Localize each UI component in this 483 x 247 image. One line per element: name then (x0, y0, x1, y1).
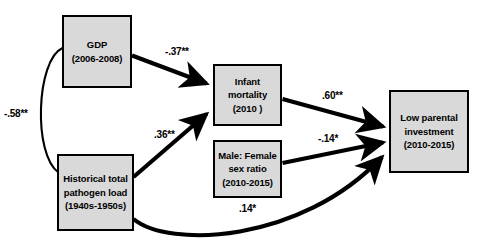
node-male-female-sex-ratio[interactable]: Male: Female sex ratio (2010-2015) (213, 140, 282, 198)
node-low-parental-investment[interactable]: Low parental investment (2010-2015) (389, 90, 469, 173)
node-lowparental-line-2: investment (404, 125, 453, 138)
path-label-sexratio-lowparental: -.14* (318, 133, 338, 144)
path-label-pathogen-infant: .36** (154, 129, 175, 140)
node-gdp-line-2: (2006-2008) (72, 52, 123, 65)
node-infant-line-2: mortality (228, 88, 267, 101)
node-lowparental-line-3: (2010-2015) (404, 138, 455, 151)
path-label-pathogen-lowparental: .14* (239, 203, 256, 214)
node-historical-pathogen-load[interactable]: Historical total pathogen load (1940s-19… (57, 154, 134, 231)
node-pathogen-line-2: pathogen load (64, 186, 128, 199)
path-label-gdp-pathogen: -.58** (4, 108, 28, 119)
node-infant-mortality[interactable]: Infant mortality (2010 ) (213, 64, 282, 126)
node-sexratio-line-3: (2010-2015) (222, 176, 273, 189)
node-sexratio-line-2: sex ratio (228, 162, 266, 175)
node-lowparental-line-1: Low parental (400, 111, 457, 124)
path-line-infant-lowparental (283, 99, 384, 127)
node-infant-line-3: (2010 ) (233, 102, 262, 115)
node-gdp-line-1: GDP (87, 38, 107, 51)
path-label-gdp-infant: -.37** (165, 46, 189, 57)
node-infant-line-1: Infant (235, 75, 260, 88)
node-gdp[interactable]: GDP (2006-2008) (62, 15, 132, 88)
path-diagram: GDP (2006-2008) Historical total pathoge… (0, 0, 483, 247)
path-line-sexratio-lowparental (283, 143, 384, 164)
node-pathogen-line-3: (1940s-1950s) (65, 199, 126, 212)
node-pathogen-line-1: Historical total (63, 172, 127, 185)
path-line-gdp-infant (132, 56, 207, 84)
path-line-pathogen-infant (134, 114, 207, 177)
path-label-infant-lowparental: .60** (322, 90, 343, 101)
node-sexratio-line-1: Male: Female (218, 149, 276, 162)
